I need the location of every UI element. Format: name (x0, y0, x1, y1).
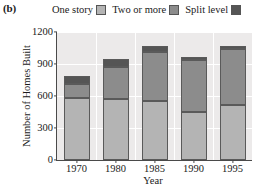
bar-segment-1995-split-level[interactable] (220, 46, 246, 49)
y-tick-mark-0 (54, 159, 57, 160)
legend-label-split-level: Split level (185, 5, 228, 16)
bar-segment-1980-one-story[interactable] (103, 99, 129, 160)
chart-legend: One story Two or more Split level (52, 3, 247, 17)
y-tick-mark-600 (54, 95, 57, 96)
bar-segment-1990-split-level[interactable] (181, 57, 207, 60)
bar-segment-1980-split-level[interactable] (103, 59, 129, 68)
vertical-gridline-1980 (135, 32, 136, 160)
y-axis-title: Number of Homes Built (21, 45, 32, 147)
x-tick-mark-1980 (115, 160, 116, 163)
y-tick-mark-900 (54, 63, 57, 64)
x-tick-label-1970: 1970 (66, 164, 87, 175)
legend-label-two-or-more: Two or more (112, 5, 166, 16)
legend-item-one-story[interactable]: One story (52, 5, 106, 16)
x-tick-label-1990: 1990 (183, 164, 204, 175)
legend-swatch-two-or-more (169, 5, 179, 15)
bar-1970[interactable] (64, 32, 90, 160)
bar-segment-1985-split-level[interactable] (142, 46, 168, 52)
x-axis-title: Year (143, 175, 162, 186)
x-tick-mark-1995 (232, 160, 233, 163)
bar-segment-1995-one-story[interactable] (220, 105, 246, 160)
x-tick-mark-1970 (76, 160, 77, 163)
legend-swatch-split-level (231, 5, 241, 15)
bar-1985[interactable] (142, 32, 168, 160)
y-tick-mark-300 (54, 127, 57, 128)
bar-segment-1985-two-or-more[interactable] (142, 52, 168, 101)
bar-1990[interactable] (181, 32, 207, 160)
bar-1980[interactable] (103, 32, 129, 160)
vertical-gridline-1995 (252, 32, 253, 160)
x-tick-label-1985: 1985 (144, 164, 165, 175)
chart-figure: (b) One story Two or more Split level 03… (0, 0, 259, 188)
x-tick-mark-1985 (154, 160, 155, 163)
bar-segment-1995-two-or-more[interactable] (220, 49, 246, 106)
vertical-gridline-1970 (96, 32, 97, 160)
bar-segment-1985-one-story[interactable] (142, 101, 168, 160)
vertical-gridline-1985 (174, 32, 175, 160)
bar-segment-1990-two-or-more[interactable] (181, 60, 207, 112)
bar-segment-1990-one-story[interactable] (181, 112, 207, 160)
x-tick-label-1980: 1980 (105, 164, 126, 175)
legend-label-one-story: One story (52, 5, 93, 16)
bar-segment-1970-two-or-more[interactable] (64, 84, 90, 98)
panel-label: (b) (3, 2, 16, 14)
bar-1995[interactable] (220, 32, 246, 160)
vertical-gridline-1990 (213, 32, 214, 160)
x-tick-label-1995: 1995 (222, 164, 243, 175)
legend-swatch-one-story (96, 5, 106, 15)
y-tick-mark-1200 (54, 31, 57, 32)
bar-segment-1970-split-level[interactable] (64, 76, 90, 85)
plot-area: 03006009001200 19701980198519901995 (56, 32, 252, 161)
bar-segment-1980-two-or-more[interactable] (103, 67, 129, 98)
legend-item-two-or-more[interactable]: Two or more (112, 5, 179, 16)
x-tick-mark-1990 (193, 160, 194, 163)
legend-item-split-level[interactable]: Split level (185, 5, 241, 16)
bar-segment-1970-one-story[interactable] (64, 98, 90, 160)
